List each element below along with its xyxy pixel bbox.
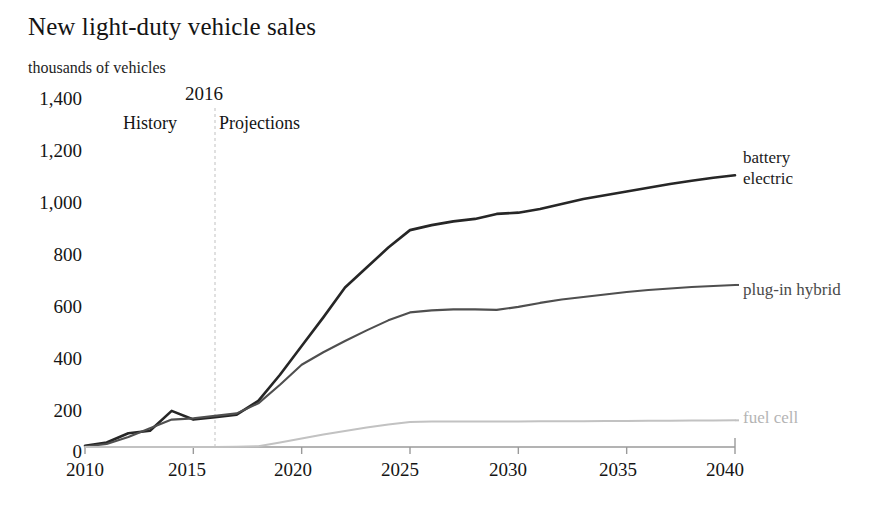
label-connector-group <box>735 285 739 420</box>
chart-canvas: New light-duty vehicle sales thousands o… <box>0 0 891 520</box>
plot-area <box>0 0 891 520</box>
series-group <box>85 175 735 447</box>
